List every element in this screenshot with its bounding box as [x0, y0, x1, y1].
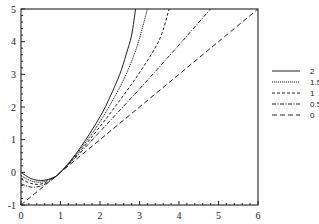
x-tick-label: 2: [98, 210, 103, 221]
line-chart: 0123456 -1012345 21.510.50: [0, 0, 319, 224]
legend-label: 1.5: [310, 78, 319, 87]
legend-label: 2: [310, 67, 315, 76]
y-tick-label: 1: [11, 134, 16, 145]
x-tick-label: 4: [177, 210, 182, 221]
x-tick-label: 5: [216, 210, 221, 221]
series-line-1-5: [21, 9, 147, 182]
x-axis: 0123456: [19, 201, 261, 221]
y-tick-label: 2: [11, 102, 16, 113]
y-tick-label: 4: [11, 36, 16, 47]
series-layer: [21, 9, 258, 205]
legend-label: 0: [310, 111, 315, 120]
x-tick-label: 6: [256, 210, 261, 221]
series-line-1: [21, 9, 169, 184]
series-line-2: [21, 9, 136, 181]
legend: 21.510.50: [272, 67, 319, 120]
y-tick-label: 0: [11, 167, 16, 178]
series-line-0-5: [21, 9, 211, 187]
legend-label: 1: [310, 89, 315, 98]
x-tick-label: 0: [19, 210, 24, 221]
y-tick-label: -1: [8, 200, 16, 211]
y-tick-label: 3: [11, 69, 16, 80]
x-tick-label: 1: [58, 210, 63, 221]
x-tick-label: 3: [137, 210, 142, 221]
y-tick-label: 5: [11, 4, 16, 15]
legend-label: 0.5: [310, 100, 319, 109]
